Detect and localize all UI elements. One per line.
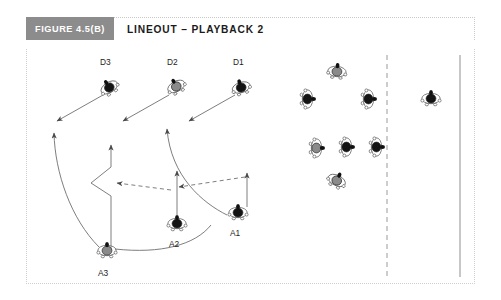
player-hand-left <box>326 177 330 181</box>
player-far-right <box>421 90 441 106</box>
run-path-a1-to-d2-channel <box>167 129 227 215</box>
player-hand-left <box>304 89 307 92</box>
player-foot-left <box>101 255 104 257</box>
pass-line-right-to-centre <box>179 177 245 187</box>
lineout-diagram <box>27 49 474 283</box>
player-foot-left <box>361 93 363 96</box>
figure-number-badge: FIGURE 4.5(B) <box>26 17 114 40</box>
player-hand-left <box>373 137 376 140</box>
player-foot-right <box>361 102 363 105</box>
player-hand-right <box>343 154 346 157</box>
player-torso <box>426 94 436 103</box>
player-a1 <box>228 204 248 220</box>
player-head <box>105 242 109 247</box>
player-foot-left <box>330 76 334 79</box>
figure-title-bar: LINEOUT – PLAYBACK 2 <box>114 17 475 40</box>
player-head <box>236 204 240 209</box>
player-foot-right <box>339 77 343 80</box>
player-head <box>372 97 377 101</box>
player-a2 <box>167 215 187 231</box>
player-torso <box>303 94 312 104</box>
tackle-arrow-d1 <box>189 95 235 121</box>
run-path-a2-kink <box>91 145 111 250</box>
player-head <box>350 145 355 149</box>
player-foot-right <box>110 255 113 257</box>
player-hand-right <box>304 106 307 109</box>
player-torso <box>342 142 351 152</box>
player-foot-right <box>300 102 302 105</box>
player-hand-right <box>116 83 120 87</box>
player-hand-left <box>365 89 368 92</box>
player-hand-right <box>184 224 187 227</box>
player-label-a1: A1 <box>230 228 240 238</box>
player-hand-right <box>313 155 316 158</box>
player-foot-left <box>232 217 235 219</box>
player-foot-left <box>425 103 428 105</box>
player-foot-right <box>180 228 183 230</box>
player-scrumhalf <box>325 168 350 191</box>
tackle-arrow-d3 <box>57 95 103 121</box>
player-hand-right <box>373 154 376 157</box>
movement-paths <box>54 95 247 250</box>
player-foot-left <box>339 141 341 144</box>
player-foot-right <box>309 151 311 154</box>
player-label-d2: D2 <box>167 57 178 67</box>
player-hand-left <box>343 137 346 140</box>
player-line-left <box>309 138 325 158</box>
player-foot-left <box>369 141 371 144</box>
player-hand-right <box>365 106 368 109</box>
player-head <box>320 146 325 150</box>
player-hand-right <box>114 251 117 254</box>
player-torso <box>172 219 182 228</box>
player-foot-right <box>369 150 371 153</box>
player-foot-left <box>309 142 311 145</box>
player-d2 <box>163 74 188 97</box>
player-foot-right <box>434 103 437 105</box>
player-hand-left <box>327 71 330 74</box>
player-hand-right <box>183 82 187 86</box>
player-foot-right <box>339 150 341 153</box>
player-label-a2: A2 <box>169 239 179 249</box>
player-foot-left <box>300 93 302 96</box>
field-lines <box>387 55 460 277</box>
player-head <box>429 90 433 95</box>
player-hand-left <box>97 251 100 254</box>
player-hand-right <box>245 213 248 216</box>
player-d1 <box>229 76 253 97</box>
player-hand-left <box>232 90 236 94</box>
player-line-right <box>369 137 385 157</box>
diagram-frame: D3D2D1A1A2A3 <box>26 49 475 284</box>
player-d3 <box>96 75 122 99</box>
player-foot-left <box>328 182 332 186</box>
player-hand-left <box>167 224 170 227</box>
player-hand-left <box>228 213 231 216</box>
player-hand-left <box>421 99 424 102</box>
figure-header: FIGURE 4.5(B) LINEOUT – PLAYBACK 2 <box>26 17 475 40</box>
players-layer <box>96 62 441 258</box>
player-hand-left <box>313 138 316 141</box>
tackle-arrow-d2 <box>123 95 169 121</box>
player-torso <box>372 142 381 152</box>
player-torso <box>102 246 112 255</box>
player-foot-right <box>241 217 244 219</box>
run-path-a3-to-d3-channel <box>54 133 99 247</box>
player-torso <box>233 208 243 217</box>
player-hand-right <box>438 99 441 102</box>
player-foot-left <box>171 228 174 230</box>
figure-page: FIGURE 4.5(B) LINEOUT – PLAYBACK 2 <box>0 0 501 300</box>
player-foot-right <box>181 88 185 92</box>
player-head <box>380 145 385 149</box>
run-path-a3-to-centre <box>115 225 211 250</box>
player-torso <box>170 80 183 93</box>
player-torso <box>312 143 321 153</box>
player-foot-right <box>114 88 118 92</box>
player-label-d3: D3 <box>100 57 111 67</box>
player-a3 <box>97 242 117 258</box>
pass-line-centre-to-left <box>117 183 171 190</box>
player-head <box>175 215 179 220</box>
player-hand-right <box>344 73 347 76</box>
player-line-middle <box>339 137 355 157</box>
player-hand-right <box>248 85 252 89</box>
player-pod-top <box>326 62 348 80</box>
player-pod-left <box>300 89 316 109</box>
